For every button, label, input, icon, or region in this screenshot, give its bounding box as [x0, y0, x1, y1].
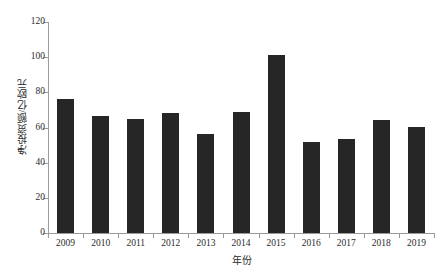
x-tick-mark	[223, 234, 224, 238]
x-tick-label: 2009	[56, 239, 75, 249]
bar	[162, 113, 179, 233]
bar	[338, 139, 355, 233]
y-axis-title-text: 净投资额/亿欧元	[15, 78, 30, 155]
x-tick-mark	[48, 234, 49, 238]
x-tick-mark	[259, 234, 260, 238]
bar	[92, 116, 109, 233]
x-tick-label: 2012	[161, 239, 180, 249]
y-tick-label: 60	[36, 123, 46, 133]
x-tick-mark	[364, 234, 365, 238]
x-tick-mark	[434, 234, 435, 238]
x-tick-label: 2015	[267, 239, 286, 249]
x-tick-label: 2018	[372, 239, 391, 249]
bar	[197, 134, 214, 233]
x-tick-label: 2010	[91, 239, 110, 249]
x-tick-mark	[118, 234, 119, 238]
x-tick-label: 2013	[196, 239, 215, 249]
x-tick-label: 2017	[337, 239, 356, 249]
bar-chart: 净投资额/亿欧元 020406080100120 200920102011201…	[0, 0, 442, 278]
bar	[373, 120, 390, 233]
y-tick-label: 40	[36, 158, 46, 168]
bar	[303, 142, 320, 233]
bar	[408, 127, 425, 233]
x-axis-title: 年份	[48, 252, 435, 267]
bar	[57, 99, 74, 233]
bar	[127, 119, 144, 233]
x-tick-mark	[83, 234, 84, 238]
x-tick-mark	[153, 234, 154, 238]
y-tick-label: 20	[36, 193, 46, 203]
x-tick-label: 2016	[302, 239, 321, 249]
x-tick-label: 2014	[232, 239, 251, 249]
x-tick-mark	[329, 234, 330, 238]
bar	[268, 55, 285, 233]
x-tick-mark	[399, 234, 400, 238]
x-tick-label: 2011	[126, 239, 145, 249]
x-tick-mark	[294, 234, 295, 238]
x-tick-mark	[188, 234, 189, 238]
y-tick-label: 80	[36, 88, 46, 98]
y-axis-title: 净投资额/亿欧元	[14, 0, 30, 233]
plot-area: 020406080100120	[48, 22, 434, 233]
y-tick-label: 100	[31, 52, 45, 62]
bar	[233, 112, 250, 233]
y-tick-label: 120	[31, 17, 45, 27]
y-tick-label: 0	[40, 228, 45, 238]
x-tick-label: 2019	[407, 239, 426, 249]
